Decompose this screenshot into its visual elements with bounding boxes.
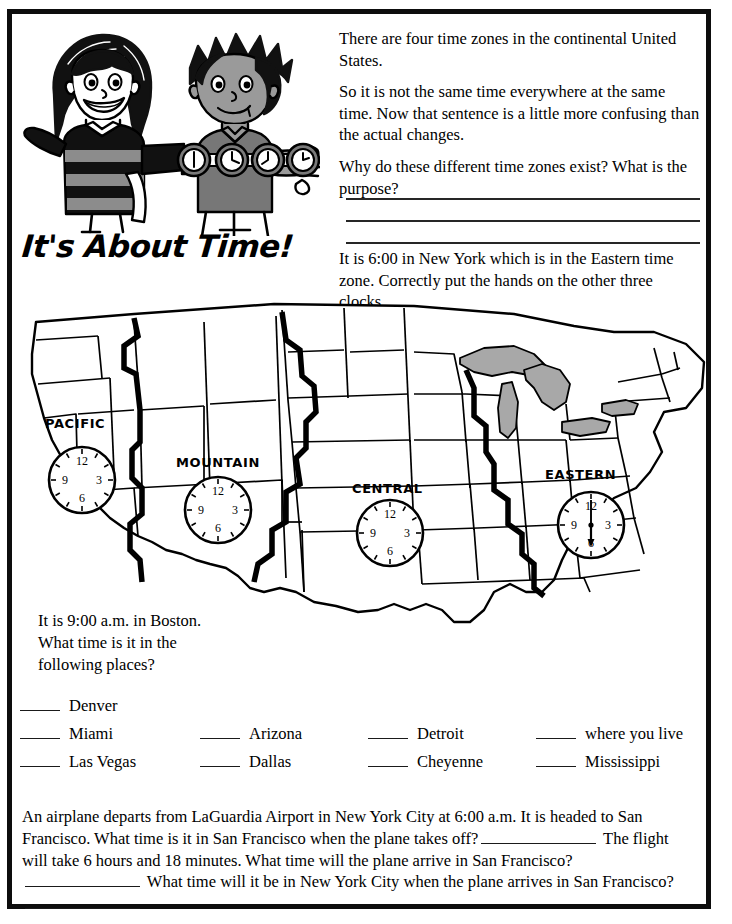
blank-line[interactable] — [536, 725, 576, 739]
svg-text:3: 3 — [96, 473, 102, 487]
intro-text-block: There are four time zones in the contine… — [339, 28, 702, 209]
clock-mountain[interactable]: 12 3 6 9 — [180, 472, 256, 552]
blank-item-arizona: Arizona — [200, 724, 368, 744]
blank-row: Las Vegas Dallas Cheyenne Mississippi — [20, 752, 700, 780]
zone-label-eastern: EASTERN — [545, 467, 616, 482]
blank-label: Dallas — [249, 752, 291, 772]
blank-item-miami: Miami — [20, 724, 200, 744]
airplane-word-problem: An airplane departs from LaGuardia Airpo… — [22, 806, 692, 915]
clock-eastern[interactable]: 12 3 6 9 — [553, 487, 629, 567]
blank-item-where-you-live: where you live — [536, 724, 700, 744]
blank-line[interactable] — [20, 753, 60, 767]
svg-text:3: 3 — [404, 526, 410, 540]
blank-item-denver: Denver — [20, 696, 200, 716]
svg-text:9: 9 — [198, 503, 204, 517]
blank-line[interactable] — [200, 725, 240, 739]
problem-segment-3: What time will it be in New York City wh… — [147, 872, 674, 891]
blank-line[interactable] — [20, 697, 60, 711]
blank-item-mississippi: Mississippi — [536, 752, 700, 772]
blank-item-dallas: Dallas — [200, 752, 368, 772]
blank-line[interactable] — [368, 753, 408, 767]
svg-text:3: 3 — [605, 518, 611, 532]
svg-text:9: 9 — [62, 473, 68, 487]
blank-item-cheyenne: Cheyenne — [368, 752, 536, 772]
blank-line[interactable] — [200, 753, 240, 767]
blank-label: Detroit — [417, 724, 464, 744]
answer-line-3[interactable] — [346, 242, 700, 244]
blank-label: Denver — [69, 696, 118, 716]
svg-text:9: 9 — [370, 526, 376, 540]
boston-line-1: It is 9:00 a.m. in Boston. — [38, 610, 278, 632]
intro-paragraph-1: There are four time zones in the contine… — [339, 28, 702, 71]
blank-label: Cheyenne — [417, 752, 483, 772]
blank-line[interactable] — [368, 725, 408, 739]
svg-text:6: 6 — [79, 491, 85, 505]
boston-line-3: following places? — [38, 654, 278, 676]
blank-item-las-vegas: Las Vegas — [20, 752, 200, 772]
worksheet-page: It's About Time! There are four time zon… — [0, 0, 732, 924]
problem-blank-2[interactable] — [25, 873, 140, 887]
boston-line-2: What time is it in the — [38, 632, 278, 654]
problem-blank-3[interactable] — [25, 895, 140, 909]
cartoon-illustration — [20, 24, 320, 236]
intro-paragraph-3: Why do these different time zones exist?… — [339, 156, 702, 199]
intro-paragraph-2: So it is not the same time everywhere at… — [339, 81, 702, 146]
clock-pacific[interactable]: 12 3 6 9 — [44, 442, 120, 522]
svg-text:6: 6 — [215, 521, 221, 535]
boston-question: It is 9:00 a.m. in Boston. What time is … — [38, 610, 278, 676]
answer-line-1[interactable] — [346, 198, 700, 200]
blank-label: Las Vegas — [69, 752, 136, 772]
svg-text:12: 12 — [76, 454, 88, 468]
blank-label: Arizona — [249, 724, 302, 744]
page-title: It's About Time! — [20, 228, 323, 268]
blank-line[interactable] — [20, 725, 60, 739]
zone-label-pacific: PACIFIC — [45, 416, 105, 431]
answer-line-2[interactable] — [346, 220, 700, 222]
blank-label: Mississippi — [585, 752, 660, 772]
blank-label: Miami — [69, 724, 113, 744]
zone-label-central: CENTRAL — [352, 481, 423, 496]
blank-label: where you live — [585, 724, 683, 744]
svg-text:6: 6 — [387, 544, 393, 558]
svg-text:3: 3 — [232, 503, 238, 517]
answer-blanks-grid: Denver Miami Arizona Detroit where you l… — [20, 696, 700, 780]
blank-row: Miami Arizona Detroit where you live — [20, 724, 700, 752]
blank-row: Denver — [20, 696, 700, 724]
clock-central[interactable]: 12 3 6 9 — [352, 495, 428, 575]
svg-text:9: 9 — [571, 518, 577, 532]
problem-blank-1[interactable] — [481, 830, 596, 844]
blank-item-detroit: Detroit — [368, 724, 536, 744]
svg-text:12: 12 — [384, 507, 396, 521]
svg-text:12: 12 — [212, 484, 224, 498]
zone-label-mountain: MOUNTAIN — [176, 455, 260, 470]
blank-line[interactable] — [536, 753, 576, 767]
